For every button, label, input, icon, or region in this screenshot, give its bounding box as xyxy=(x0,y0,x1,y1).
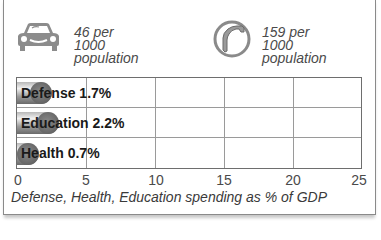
stat-telephones-value: 159 per 1000 xyxy=(262,26,327,52)
x-tick-25: 25 xyxy=(351,172,367,188)
stat-cars-text: 46 per 1000 population xyxy=(74,26,139,65)
bar-row-defense: Defense 1.7% xyxy=(17,78,361,108)
bar-row-health: Health 0.7% xyxy=(17,138,361,168)
stat-telephones-unit: population xyxy=(262,52,327,65)
x-tick-0: 0 xyxy=(14,172,22,188)
x-tick-15: 15 xyxy=(216,172,232,188)
x-tick-10: 10 xyxy=(148,172,164,188)
stat-cars-unit: population xyxy=(74,52,139,65)
telephone-icon xyxy=(211,20,255,58)
bar-row-education: Education 2.2% xyxy=(17,108,361,138)
x-tick-20: 20 xyxy=(285,172,301,188)
bar-label-health: Health 0.7% xyxy=(21,144,100,162)
stat-telephones-text: 159 per 1000 population xyxy=(262,26,327,65)
x-tick-5: 5 xyxy=(82,172,90,188)
stat-cars-value: 46 per 1000 xyxy=(74,26,139,52)
bar-label-education: Education 2.2% xyxy=(21,114,124,132)
chart-plot-area: Defense 1.7% Education 2.2% Health 0.7% xyxy=(16,77,362,169)
x-axis-label: Defense, Health, Education spending as %… xyxy=(11,189,327,205)
bar-label-defense: Defense 1.7% xyxy=(21,84,111,102)
car-icon xyxy=(17,22,60,52)
